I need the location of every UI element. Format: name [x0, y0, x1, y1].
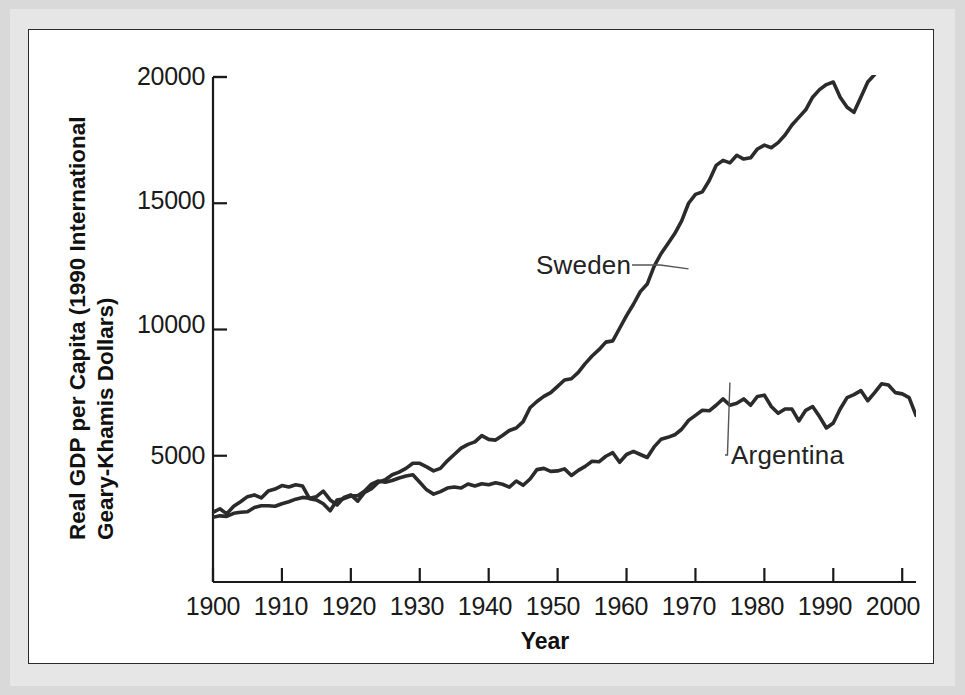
xtick-label-2000: 2000	[849, 592, 937, 621]
x-axis-title: Year	[465, 628, 625, 655]
figure-root: 5000 10000 15000 20000 1900 1910 1920 19…	[0, 0, 965, 695]
y-axis-title-line2: Geary-Khamis Dollars)	[93, 297, 120, 540]
ytick-label-20000: 20000	[60, 62, 205, 91]
y-axis-title-line1: Real GDP per Capita (1990 International	[65, 117, 92, 540]
figure-panel	[28, 29, 934, 664]
series-label-argentina: Argentina	[731, 440, 844, 471]
series-label-sweden: Sweden	[536, 250, 631, 281]
